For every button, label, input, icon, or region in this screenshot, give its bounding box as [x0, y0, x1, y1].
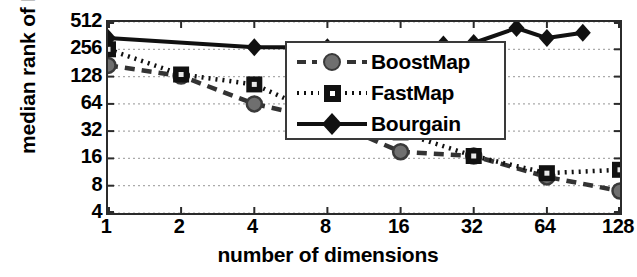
y-tick-label: 8: [44, 174, 102, 194]
y-axis-label: median rank of ENN: [16, 0, 40, 166]
x-axis-tick-labels: 1248163264128: [0, 216, 637, 246]
x-tick-label: 4: [222, 216, 282, 236]
legend-item-boostmap: BoostMap: [287, 46, 504, 77]
x-axis-label: number of dimensions: [118, 243, 538, 267]
legend-item-bourgain: Bourgain: [287, 108, 504, 139]
legend-item-fastmap: FastMap: [287, 77, 504, 108]
x-tick-label: 32: [442, 216, 502, 236]
y-tick-label: 32: [44, 119, 102, 139]
x-tick-label: 2: [149, 216, 209, 236]
legend-swatch-boostmap: [295, 49, 369, 75]
y-tick-label: 512: [44, 10, 102, 30]
x-tick-label: 16: [369, 216, 429, 236]
y-tick-label: 16: [44, 146, 102, 166]
y-tick-label: 64: [44, 92, 102, 112]
legend-label-boostmap: BoostMap: [371, 50, 470, 74]
legend-swatch-fastmap: [295, 80, 369, 106]
legend-label-bourgain: Bourgain: [371, 112, 461, 136]
x-tick-label: 128: [588, 216, 637, 236]
legend-swatch-bourgain: [295, 111, 369, 137]
legend: BoostMap FastMap Bourgain: [285, 41, 506, 140]
x-tick-label: 1: [76, 216, 136, 236]
x-tick-label: 64: [515, 216, 575, 236]
y-tick-label: 256: [44, 37, 102, 57]
legend-label-fastmap: FastMap: [371, 81, 454, 105]
chart-figure: median rank of ENN number of dimensions …: [0, 0, 637, 277]
x-tick-label: 8: [295, 216, 355, 236]
y-tick-label: 128: [44, 65, 102, 85]
